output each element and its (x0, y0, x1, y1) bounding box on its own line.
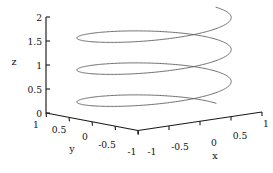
z-tick-label-1p5: 1.5 (27, 36, 42, 47)
helix-curve-group (77, 7, 231, 106)
x-tick-label-1: 1 (263, 118, 269, 129)
helix-curve (77, 7, 231, 106)
y-tick-0p5 (69, 117, 70, 121)
x-tick-label-0: 0 (211, 137, 217, 148)
x-tick-label-m0p5: -0.5 (171, 141, 189, 152)
figure-canvas: 2 1.5 1 0.5 0 1 0.5 0 -0.5 -1 -1 -0.5 0 … (0, 0, 273, 173)
x-tick-label-m1: -1 (148, 146, 157, 157)
y-tick-1 (46, 113, 47, 117)
y-tick-label-m0p5: -0.5 (98, 139, 116, 150)
y-tick-0 (92, 122, 93, 126)
x-axis-line (138, 112, 262, 131)
z-axis-ticks (46, 17, 50, 113)
y-tick-label-0: 0 (82, 131, 88, 142)
x-axis-label: x (212, 150, 218, 161)
z-tick-labels: 2 1.5 1 0.5 0 (27, 12, 42, 119)
y-tick-label-m1: -1 (128, 146, 137, 157)
z-tick-label-2: 2 (36, 12, 42, 23)
z-tick-label-1: 1 (36, 60, 42, 71)
z-axis-label: z (11, 56, 16, 67)
y-tick-labels: 1 0.5 0 -0.5 -1 (33, 119, 136, 157)
y-axis-label: y (68, 143, 75, 154)
x-tick-labels: -1 -0.5 0 0.5 1 (148, 118, 269, 157)
axes-group (46, 17, 262, 131)
z-tick-label-0: 0 (36, 108, 42, 119)
y-tick-m0p5 (115, 126, 116, 130)
y-tick-label-0p5: 0.5 (52, 124, 67, 135)
z-tick-label-0p5: 0.5 (27, 84, 42, 95)
plot-3d-helix: 2 1.5 1 0.5 0 1 0.5 0 -0.5 -1 -1 -0.5 0 … (0, 0, 273, 173)
x-tick-label-0p5: 0.5 (233, 130, 248, 141)
y-tick-label-1: 1 (33, 119, 39, 130)
